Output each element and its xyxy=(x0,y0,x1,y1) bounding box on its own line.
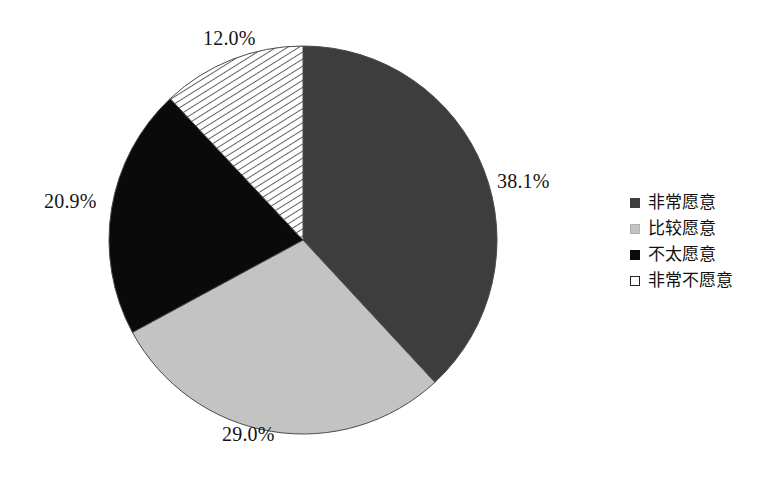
slice-data-label-fei-chang-bu-yuan-yi: 12.0% xyxy=(203,27,256,50)
legend-swatch-icon-2 xyxy=(630,250,640,260)
chart-legend: 非常愿意 比较愿意 不太愿意 非常不愿意 xyxy=(630,190,780,294)
legend-swatch-icon-3 xyxy=(630,276,640,286)
slice-data-label-bu-tai-yuan-yi: 20.9% xyxy=(44,190,97,213)
legend-swatch-icon-0 xyxy=(630,198,640,208)
legend-item-3[interactable]: 非常不愿意 xyxy=(630,268,780,294)
legend-item-label-0: 非常愿意 xyxy=(648,193,716,213)
legend-item-1[interactable]: 比较愿意 xyxy=(630,216,780,242)
legend-swatch-icon-1 xyxy=(630,224,640,234)
legend-item-0[interactable]: 非常愿意 xyxy=(630,190,780,216)
legend-item-label-1: 比较愿意 xyxy=(648,219,716,239)
slice-data-label-bi-jiao-yuan-yi: 29.0% xyxy=(222,423,275,446)
legend-item-2[interactable]: 不太愿意 xyxy=(630,242,780,268)
pie-chart-figure: 38.1% 29.0% 20.9% 12.0% 非常愿意 比较愿意 不太愿意 非… xyxy=(0,0,781,484)
pie-slice-group xyxy=(109,46,497,434)
legend-item-label-2: 不太愿意 xyxy=(648,245,716,265)
legend-item-label-3: 非常不愿意 xyxy=(648,271,733,291)
slice-data-label-non-chang-yuan-yi: 38.1% xyxy=(497,170,550,193)
